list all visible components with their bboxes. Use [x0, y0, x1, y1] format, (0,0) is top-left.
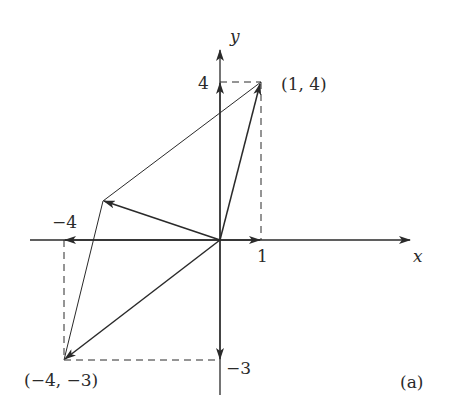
x-tick-1: 1 — [257, 246, 268, 266]
vector-neg4-neg3 — [65, 240, 220, 359]
point-label-neg4-neg3: (−4, −3) — [24, 370, 98, 390]
y-tick-4: 4 — [198, 73, 209, 93]
x-tick-neg4: −4 — [52, 212, 77, 232]
y-axis-label: y — [229, 26, 240, 46]
panel-label: (a) — [400, 372, 423, 392]
vector-1-4 — [220, 84, 260, 240]
point-label-1-4: (1, 4) — [281, 74, 327, 94]
y-tick-neg3: −3 — [226, 358, 251, 378]
main-vectors — [65, 84, 260, 359]
x-axis-label: x — [413, 246, 423, 266]
vector-diagram: y x 4 −3 −4 1 (1, 4) (−4, −3) (a) — [0, 0, 454, 420]
vector-sum — [104, 201, 220, 240]
